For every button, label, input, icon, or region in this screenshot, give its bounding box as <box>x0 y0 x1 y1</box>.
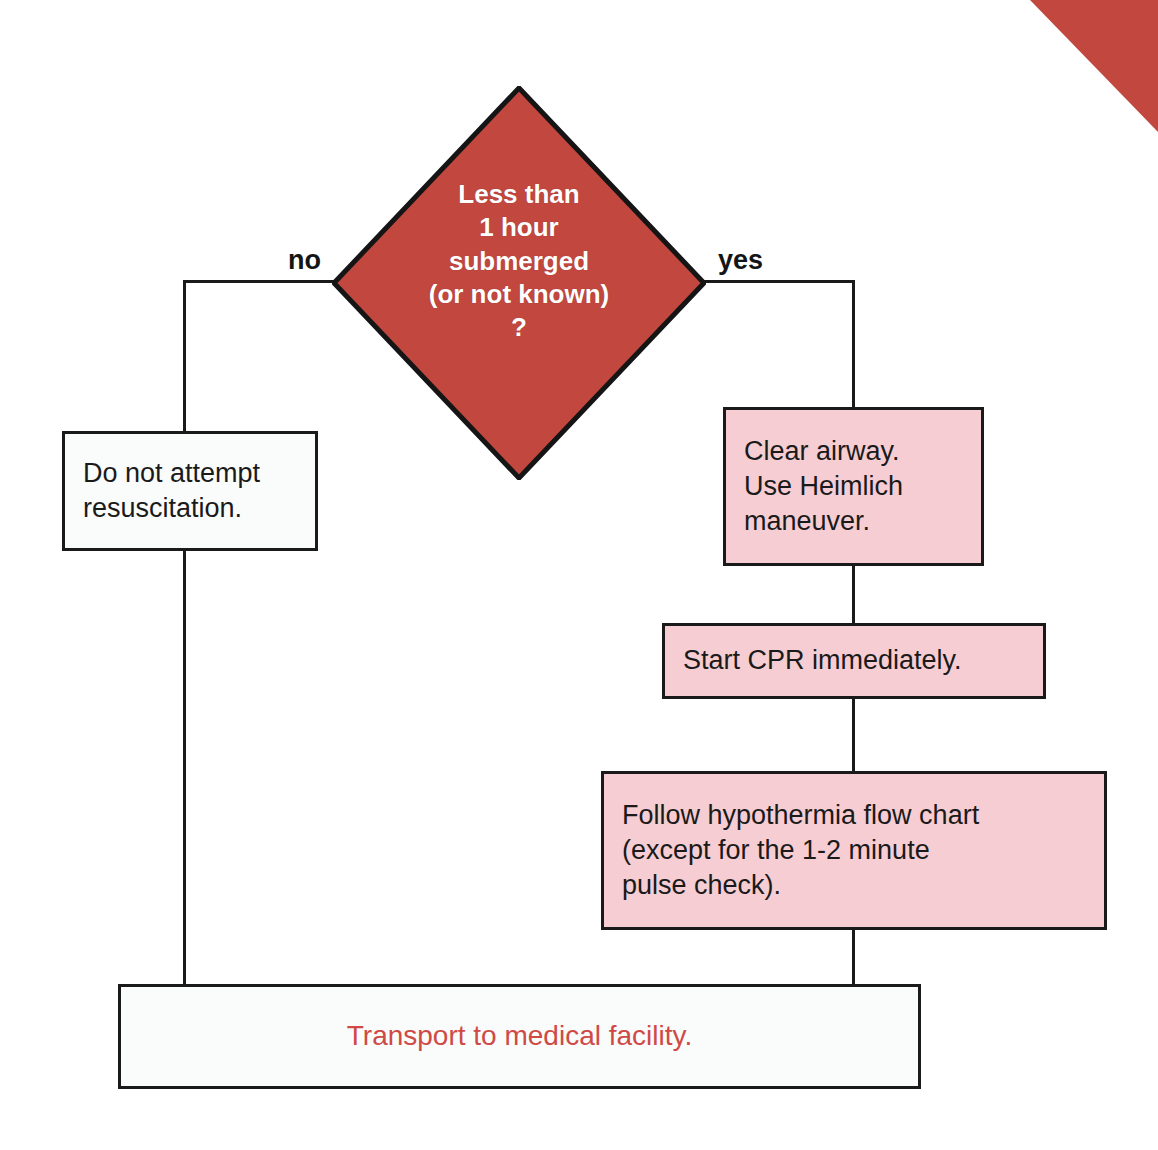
decision-node-label: Less than 1 hour submerged (or not known… <box>332 178 706 344</box>
node-do-not-attempt-resuscitation[interactable]: Do not attempt resuscitation. <box>62 431 318 551</box>
branch-label-no: no <box>288 245 321 276</box>
node-label: Do not attempt resuscitation. <box>83 456 260 526</box>
corner-accent-triangle <box>1030 0 1158 132</box>
node-start-cpr[interactable]: Start CPR immediately. <box>662 623 1046 699</box>
connector-no-vertical <box>183 280 186 986</box>
decision-node-submersion-time[interactable]: Less than 1 hour submerged (or not known… <box>332 86 706 480</box>
connector-hypothermia-to-transport <box>852 927 855 987</box>
connector-cpr-to-hypothermia <box>852 696 855 774</box>
connector-airway-to-cpr <box>852 563 855 626</box>
node-label: Clear airway. Use Heimlich maneuver. <box>744 434 903 539</box>
node-label: Follow hypothermia flow chart (except fo… <box>622 798 979 903</box>
connector-yes-vertical <box>852 280 855 410</box>
flowchart-canvas: no yes Less than 1 hour submerged (or no… <box>0 0 1158 1150</box>
node-transport-to-medical-facility[interactable]: Transport to medical facility. <box>118 984 921 1089</box>
node-label: Start CPR immediately. <box>683 643 962 678</box>
connector-no-horizontal <box>183 280 337 283</box>
node-follow-hypothermia-flow-chart[interactable]: Follow hypothermia flow chart (except fo… <box>601 771 1107 930</box>
node-clear-airway[interactable]: Clear airway. Use Heimlich maneuver. <box>723 407 984 566</box>
branch-label-yes: yes <box>718 245 763 276</box>
node-label: Transport to medical facility. <box>347 1018 692 1054</box>
connector-yes-horizontal <box>702 280 855 283</box>
